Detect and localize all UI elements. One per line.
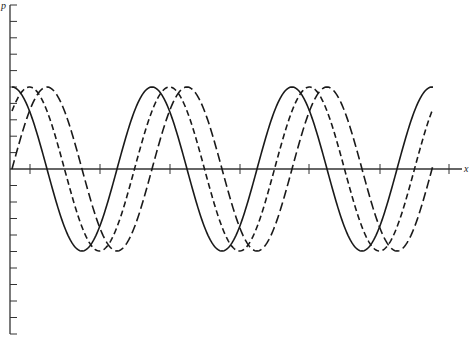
phase-shifted-waves-chart: p x [0,0,470,339]
axes [10,5,462,334]
x-axis-label: x [463,163,469,174]
y-axis-label: p [0,0,6,11]
